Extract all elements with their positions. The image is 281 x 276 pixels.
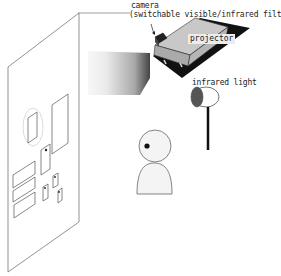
projection-beam (88, 51, 150, 95)
projector-label: projector (188, 34, 235, 44)
camera-label: camera (131, 1, 159, 10)
poster-2 (52, 94, 68, 154)
tag-3 (58, 188, 62, 203)
person-body (137, 163, 172, 194)
person-eye (144, 143, 149, 148)
camera-note-label: (switchable visible/infrared filter) (129, 10, 281, 19)
infrared-light (191, 87, 219, 150)
scene-diagram (0, 0, 281, 276)
person (137, 130, 172, 194)
tag-2 (43, 184, 48, 201)
person-head (139, 130, 171, 162)
infrared-light-label: infrared light (192, 78, 257, 87)
tag-1 (53, 173, 58, 188)
